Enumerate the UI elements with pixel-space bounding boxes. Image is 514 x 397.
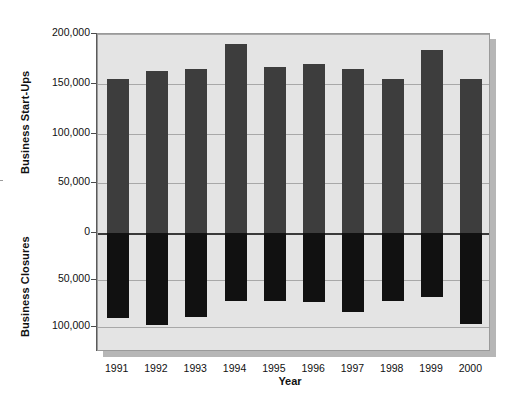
bar-startups-2000 — [460, 79, 482, 233]
bar-closures-1997 — [342, 233, 364, 312]
bar-startups-1992 — [146, 71, 168, 233]
bar-startups-1996 — [303, 64, 325, 233]
y-tick-up-100000: 100,000 — [26, 126, 90, 138]
bar-startups-1997 — [342, 69, 364, 233]
plot-area — [97, 33, 490, 351]
bar-startups-1993 — [185, 69, 207, 233]
x-tick-1994: 1994 — [216, 362, 254, 374]
x-tick-1991: 1991 — [98, 362, 136, 374]
gridline-up-200000 — [98, 34, 489, 35]
y-tick-up-150000: 150,000 — [26, 76, 90, 88]
y-tick-down-100000: 100,000 — [26, 319, 90, 331]
bar-startups-1991 — [107, 79, 129, 233]
x-tick-2000: 2000 — [451, 362, 489, 374]
x-axis-title-year: Year — [95, 375, 485, 387]
y-tick-down-50000: 50,000 — [26, 272, 90, 284]
bar-startups-1994 — [225, 44, 247, 233]
y-axis-tick-labels: 200,000150,000100,00050,000050,000100,00… — [26, 0, 90, 397]
bar-closures-1991 — [107, 233, 129, 318]
bar-startups-1999 — [421, 50, 443, 233]
bar-startups-1998 — [382, 79, 404, 233]
bar-closures-1994 — [225, 233, 247, 301]
gridline-down-100000 — [98, 327, 489, 328]
bar-closures-1999 — [421, 233, 443, 297]
x-tick-1997: 1997 — [333, 362, 371, 374]
x-tick-1999: 1999 — [412, 362, 450, 374]
y-tick-up-50000: 50,000 — [26, 175, 90, 187]
bar-closures-1995 — [264, 233, 286, 301]
bar-closures-1992 — [146, 233, 168, 325]
x-tick-1992: 1992 — [137, 362, 175, 374]
scan-artifact-left — [0, 180, 3, 181]
bar-startups-1995 — [264, 67, 286, 233]
x-tick-1995: 1995 — [255, 362, 293, 374]
bar-closures-1993 — [185, 233, 207, 317]
bar-closures-2000 — [460, 233, 482, 324]
business-startups-closures-chart: Business Start-Ups Business Closures Yea… — [0, 0, 514, 397]
x-tick-1996: 1996 — [294, 362, 332, 374]
x-tick-1998: 1998 — [373, 362, 411, 374]
x-tick-1993: 1993 — [176, 362, 214, 374]
bar-closures-1998 — [382, 233, 404, 301]
bar-closures-1996 — [303, 233, 325, 302]
y-tick-up-200000: 200,000 — [26, 26, 90, 38]
y-tick-zero: 0 — [26, 225, 90, 237]
